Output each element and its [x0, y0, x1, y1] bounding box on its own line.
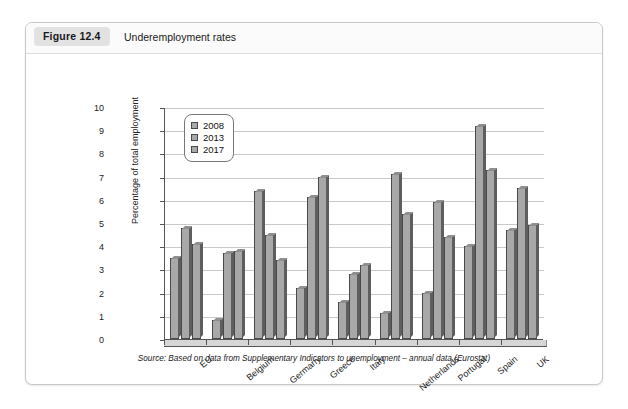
y-axis-tick — [160, 317, 165, 318]
legend-item-2017: 2017 — [191, 144, 224, 155]
legend-label: 2008 — [203, 120, 224, 131]
chart-area: Percentage of total employment 200820132… — [26, 54, 602, 385]
y-axis-tick — [160, 224, 165, 225]
x-axis-tick — [206, 340, 207, 345]
bar-belgium-2017 — [234, 251, 243, 339]
x-axis-tick — [332, 340, 333, 345]
legend-swatch-icon — [191, 146, 198, 153]
bar-eu-2017 — [192, 244, 201, 339]
bar-eu-2008 — [170, 258, 179, 339]
bar-spain-2008 — [464, 246, 473, 339]
figure-header: Figure 12.4 Underemployment rates — [26, 23, 602, 54]
bar-netherlands-2008 — [380, 313, 389, 339]
y-axis-tick — [160, 131, 165, 132]
bar-germany-2008 — [254, 191, 263, 339]
x-axis-tick — [501, 340, 502, 345]
y-axis-title: Percentage of total employment — [130, 97, 140, 224]
axis-depth-band — [164, 340, 547, 347]
bar-belgium-2008 — [212, 320, 221, 339]
bar-netherlands-2013 — [391, 174, 400, 339]
legend-item-2013: 2013 — [191, 132, 224, 143]
figure-number-badge: Figure 12.4 — [34, 27, 110, 46]
gridline — [165, 108, 544, 109]
legend-label: 2013 — [203, 132, 224, 143]
legend-item-2008: 2008 — [191, 120, 224, 131]
bar-uk-2013 — [517, 188, 526, 339]
bar-portugal-2017 — [444, 237, 453, 339]
bar-uk-2017 — [528, 225, 537, 339]
y-axis-label: 3 — [99, 265, 104, 275]
y-axis-label: 7 — [99, 173, 104, 183]
y-axis-label: 8 — [99, 149, 104, 159]
x-axis-tick — [290, 340, 291, 345]
bar-portugal-2008 — [422, 293, 431, 339]
y-axis-label: 9 — [99, 126, 104, 136]
bar-greece-2013 — [307, 197, 316, 339]
y-axis-label: 4 — [99, 242, 104, 252]
bar-germany-2017 — [276, 260, 285, 339]
bar-portugal-2013 — [433, 202, 442, 339]
y-axis-label: 1 — [99, 312, 104, 322]
y-axis-tick — [160, 154, 165, 155]
y-axis-tick — [160, 247, 165, 248]
y-axis-tick — [160, 270, 165, 271]
legend-swatch-icon — [191, 134, 198, 141]
y-axis-tick — [160, 201, 165, 202]
x-axis-tick — [248, 340, 249, 345]
y-axis-tick — [160, 294, 165, 295]
figure-caption: Underemployment rates — [124, 31, 236, 43]
figure-panel: Figure 12.4 Underemployment rates Percen… — [25, 22, 603, 385]
bar-italy-2013 — [349, 274, 358, 339]
bar-spain-2013 — [475, 126, 484, 339]
legend-label: 2017 — [203, 144, 224, 155]
y-axis-label: 10 — [94, 103, 104, 113]
bar-spain-2017 — [486, 170, 495, 339]
legend-swatch-icon — [191, 122, 198, 129]
chart-legend: 200820132017 — [184, 114, 234, 162]
y-axis-label: 5 — [99, 219, 104, 229]
x-axis-tick — [417, 340, 418, 345]
bar-netherlands-2017 — [402, 214, 411, 339]
y-axis-label: 2 — [99, 289, 104, 299]
y-axis-tick — [160, 178, 165, 179]
bar-greece-2017 — [318, 177, 327, 339]
x-axis-tick — [375, 340, 376, 345]
bar-uk-2008 — [506, 230, 515, 339]
bar-italy-2008 — [338, 302, 347, 339]
y-axis-tick — [160, 108, 165, 109]
bar-italy-2017 — [360, 265, 369, 339]
bar-greece-2008 — [296, 288, 305, 339]
x-axis-tick — [459, 340, 460, 345]
y-axis-label: 6 — [99, 196, 104, 206]
bar-eu-2013 — [181, 228, 190, 339]
x-axis-tick — [164, 340, 165, 345]
bar-germany-2013 — [265, 235, 274, 339]
bar-belgium-2013 — [223, 253, 232, 339]
y-axis-label: 0 — [99, 335, 104, 345]
